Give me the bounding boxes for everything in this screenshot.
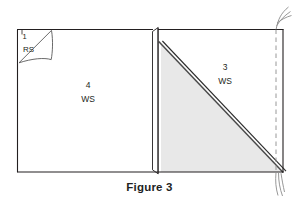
center-fold-flap [153, 28, 159, 174]
thread-tail-top [276, 7, 291, 29]
label-corner-number: 1 [22, 32, 26, 41]
figure-container: 1 RS 4 WS 3 WS Figure 3 [0, 0, 299, 204]
label-corner-side: RS [23, 45, 34, 54]
label-left-panel-number: 4 [86, 80, 91, 90]
label-right-panel-number: 3 [223, 62, 228, 72]
sewing-diagram: 1 RS 4 WS 3 WS [0, 0, 299, 204]
label-right-panel-side: WS [218, 76, 232, 86]
figure-caption: Figure 3 [0, 181, 299, 193]
label-left-panel-side: WS [81, 94, 95, 104]
